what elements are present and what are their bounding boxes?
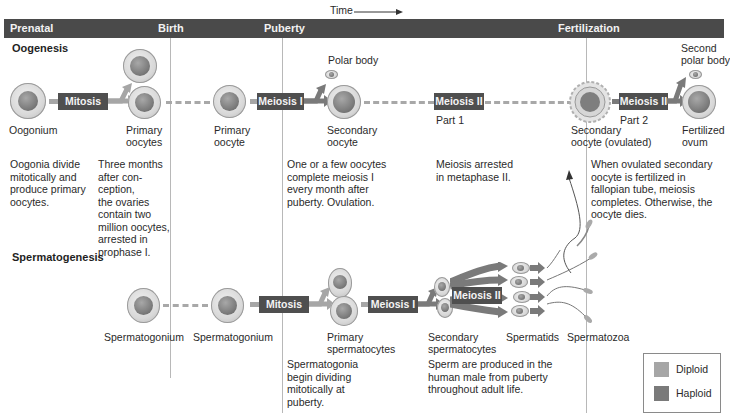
timeline-birth: Birth bbox=[158, 22, 184, 34]
secondary-oocyte-label-1: Secondary bbox=[327, 124, 377, 137]
secondary-spermatocytes-label-1: Secondary bbox=[428, 331, 478, 344]
oogenesis-meiosis1-box: Meiosis I bbox=[257, 93, 304, 110]
primary-oocyte-cell-icon bbox=[213, 85, 246, 118]
note-birth: Three monthsafter con- ception,the ovari… bbox=[98, 158, 170, 258]
spermatid-icon bbox=[513, 291, 531, 303]
part2-label: Part 2 bbox=[620, 114, 648, 127]
fertilized-ovum-icon bbox=[682, 85, 716, 119]
primary-oocyte-label-1: Primary bbox=[214, 124, 250, 137]
spermatogenesis-meiosis2-box: Meiosis II bbox=[452, 287, 502, 304]
legend-haploid-label: Haploid bbox=[676, 387, 712, 400]
secondary-oocyte-label-2: oocyte bbox=[327, 136, 358, 149]
primary-oocytes-label-2: oocytes bbox=[126, 136, 162, 149]
primary-spermatocytes-label-1: Primary bbox=[327, 331, 363, 344]
fertilized-label-2: ovum bbox=[682, 136, 708, 149]
spermatid-arrows-icon bbox=[530, 262, 546, 320]
spermatid-icon bbox=[511, 305, 529, 317]
timeline-prenatal: Prenatal bbox=[10, 22, 53, 34]
second-polar-label-2: polar body bbox=[681, 54, 730, 67]
primary-spermatocyte-lower-icon bbox=[330, 296, 358, 326]
spermatogonium-dashed-line bbox=[163, 304, 208, 307]
secondary-ovulated-label-1: Secondary bbox=[571, 124, 621, 137]
legend-diploid-swatch bbox=[654, 362, 669, 377]
spermatogonium-2-label: Spermatogonium bbox=[193, 331, 273, 344]
spermatogonium-2-icon bbox=[211, 288, 244, 323]
fertilized-label-1: Fertilized bbox=[682, 124, 725, 137]
polar-body-icon bbox=[325, 70, 338, 79]
primary-oocyte-label-2: oocyte bbox=[214, 136, 245, 149]
spermatozoa-label: Spermatozoa bbox=[567, 331, 629, 344]
primary-spermatocytes-label-2: spermatocytes bbox=[327, 343, 395, 356]
spermatid-icon bbox=[510, 276, 528, 288]
birth-divider bbox=[170, 38, 171, 378]
spermatid-icon bbox=[512, 262, 530, 274]
note-metaphase-arrest: Meiosis arrestedin metaphase II. bbox=[436, 158, 513, 183]
primary-oocyte-lower-icon bbox=[128, 86, 161, 119]
spermatogenesis-meiosis1-box: Meiosis I bbox=[368, 296, 418, 313]
spermatozoa-icon bbox=[545, 250, 605, 330]
polar-body-label: Polar body bbox=[328, 54, 378, 67]
spermatogonium-1-icon bbox=[127, 288, 160, 323]
timeline-bar: Prenatal Birth Puberty Fertilization bbox=[4, 19, 724, 38]
oogonium-cell-icon bbox=[10, 83, 46, 119]
oogonium-label: Oogonium bbox=[9, 124, 57, 137]
secondary-spermatocytes-label-2: spermatocytes bbox=[428, 343, 496, 356]
note-fertilization: When ovulated secondaryoocyte is fertili… bbox=[591, 158, 712, 221]
metaphase-arrest-dashed-line-1 bbox=[364, 101, 434, 104]
oogenesis-meiosis2-part1-box: Meiosis II bbox=[434, 93, 484, 110]
second-polar-label-1: Second bbox=[681, 42, 717, 55]
oogenesis-mitosis-box: Mitosis bbox=[58, 93, 108, 110]
metaphase-arrest-dashed-line-2 bbox=[485, 101, 573, 104]
arrest-dashed-line bbox=[166, 101, 210, 104]
legend-haploid-swatch bbox=[654, 386, 669, 401]
timeline-fertilization: Fertilization bbox=[558, 22, 620, 34]
secondary-spermatocyte-upper-icon bbox=[434, 277, 450, 297]
timeline-puberty: Puberty bbox=[264, 22, 305, 34]
time-label: Time bbox=[330, 4, 353, 17]
note-puberty-oogenesis: One or a few oocytescomplete meiosis I e… bbox=[287, 158, 386, 208]
ovulated-oocyte-icon bbox=[568, 80, 612, 124]
spermatids-label: Spermatids bbox=[506, 331, 559, 344]
spermatogenesis-mitosis-box: Mitosis bbox=[259, 296, 309, 313]
primary-spermatocyte-upper-icon bbox=[328, 268, 352, 298]
part1-label: Part 1 bbox=[436, 114, 464, 127]
note-sperm-production: Sperm are produced in thehuman male from… bbox=[428, 358, 552, 396]
primary-oocytes-label-1: Primary bbox=[126, 124, 162, 137]
secondary-ovulated-label-2: oocyte (ovulated) bbox=[571, 136, 652, 149]
second-polar-body-icon bbox=[689, 70, 702, 79]
note-puberty-spermatogenesis: Spermatogoniabegin dividing mitotically … bbox=[287, 358, 358, 408]
oogenesis-meiosis2-part2-box: Meiosis II bbox=[619, 93, 668, 110]
legend: Diploid Haploid bbox=[643, 353, 721, 413]
spermatogonium-1-label: Spermatogonium bbox=[104, 331, 184, 344]
note-prenatal: Oogonia dividemitotically and produce pr… bbox=[10, 158, 86, 208]
primary-oocyte-upper-icon bbox=[123, 49, 157, 83]
secondary-oocyte-cell-icon bbox=[327, 85, 361, 119]
legend-diploid-label: Diploid bbox=[676, 363, 708, 376]
time-arrow-icon bbox=[354, 8, 404, 16]
oogenesis-title: Oogenesis bbox=[12, 42, 68, 54]
spermatogenesis-title: Spermatogenesis bbox=[12, 251, 104, 263]
